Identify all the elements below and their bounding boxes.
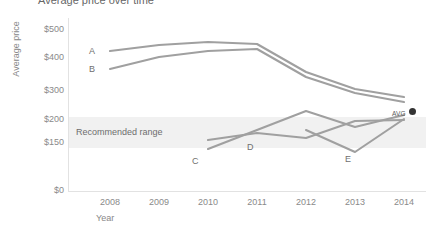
x-tick-2014: 2014 (394, 197, 414, 207)
avg-marker-dot (409, 108, 416, 115)
series-line-e (306, 119, 404, 152)
x-tick-2009: 2009 (149, 197, 169, 207)
series-label-e: E (345, 154, 351, 164)
x-tick-2008: 2008 (100, 197, 120, 207)
line-chart: Average price over time Average price Ye… (0, 0, 434, 238)
x-tick-2010: 2010 (198, 197, 218, 207)
x-tick-2013: 2013 (345, 197, 365, 207)
series-line-a (110, 42, 404, 97)
series-label-b: B (89, 64, 95, 74)
avg-marker-label: AVG (392, 110, 406, 117)
series-label-d: D (247, 142, 254, 152)
series-label-c: C (192, 156, 199, 166)
x-tick-2012: 2012 (296, 197, 316, 207)
series-line-b (110, 49, 404, 102)
x-tick-2011: 2011 (247, 197, 266, 207)
series-label-a: A (89, 46, 95, 56)
